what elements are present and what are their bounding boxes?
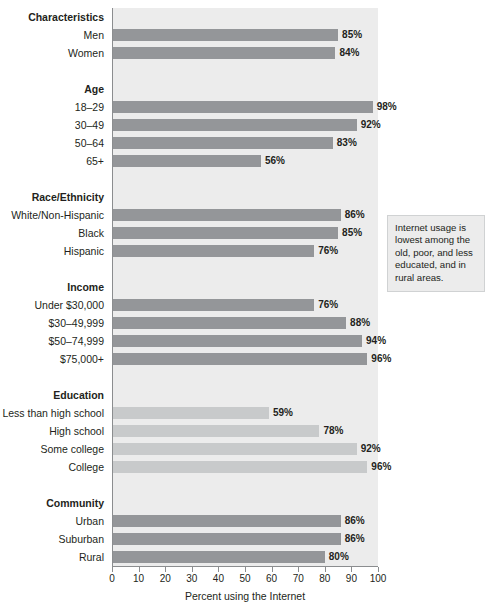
- bar: [112, 533, 341, 545]
- group-header-label: Race/Ethnicity: [0, 188, 104, 206]
- x-axis-tick-label: 40: [203, 573, 233, 584]
- x-axis-tick-label: 80: [310, 573, 340, 584]
- bar-value-label: 78%: [319, 422, 343, 440]
- plot-band: [112, 260, 378, 278]
- bar-value-label: 92%: [357, 116, 381, 134]
- x-axis-tick-label: 30: [177, 573, 207, 584]
- bar-value-label: 56%: [261, 152, 285, 170]
- bar-row-label: $75,000+: [0, 350, 104, 368]
- x-axis-tick: [192, 567, 193, 572]
- bar-row: $75,000+96%: [0, 350, 497, 368]
- x-axis-tick: [112, 567, 113, 572]
- bar-value-label: 76%: [314, 296, 338, 314]
- bar-row: 65+56%: [0, 152, 497, 170]
- plot-band: [112, 8, 378, 26]
- group-header-row: Community: [0, 494, 497, 512]
- bar-row-label: Men: [0, 26, 104, 44]
- plot-band: [112, 80, 378, 98]
- row-spacer: [0, 368, 497, 386]
- bar-row-label: Hispanic: [0, 242, 104, 260]
- plot-band: [112, 62, 378, 80]
- bar-row: Under $30,00076%: [0, 296, 497, 314]
- bar-row-label: College: [0, 458, 104, 476]
- bar-row: $50–74,99994%: [0, 332, 497, 350]
- bar: [112, 461, 367, 473]
- bar: [112, 335, 362, 347]
- x-axis-tick: [218, 567, 219, 572]
- plot-band: [112, 170, 378, 188]
- bar-value-label: 98%: [373, 98, 397, 116]
- x-axis-tick-label: 70: [283, 573, 313, 584]
- bar: [112, 227, 338, 239]
- x-axis-tick: [325, 567, 326, 572]
- x-axis-tick-label: 60: [257, 573, 287, 584]
- x-axis-tick: [351, 567, 352, 572]
- x-axis-tick: [298, 567, 299, 572]
- bar: [112, 317, 346, 329]
- plot-band: [112, 386, 378, 404]
- bar-row: Suburban86%: [0, 530, 497, 548]
- bar-row: Some college92%: [0, 440, 497, 458]
- bar-value-label: 80%: [325, 548, 349, 566]
- group-header-row: Education: [0, 386, 497, 404]
- bar-row: Women84%: [0, 44, 497, 62]
- x-axis-tick-label: 20: [150, 573, 180, 584]
- x-axis-tick-label: 50: [230, 573, 260, 584]
- plot-band: [112, 188, 378, 206]
- x-axis-tick-label: 90: [336, 573, 366, 584]
- group-header-label: Income: [0, 278, 104, 296]
- bar-value-label: 76%: [314, 242, 338, 260]
- x-axis-tick: [139, 567, 140, 572]
- bar-value-label: 86%: [341, 530, 365, 548]
- bar-row: $30–49,99988%: [0, 314, 497, 332]
- group-header-label: Education: [0, 386, 104, 404]
- bar-row-label: 18–29: [0, 98, 104, 116]
- bar: [112, 299, 314, 311]
- bar-row: High school78%: [0, 422, 497, 440]
- x-axis-tick-label: 0: [97, 573, 127, 584]
- bar-row: Rural80%: [0, 548, 497, 566]
- plot-band: [112, 494, 378, 512]
- x-axis-tick: [165, 567, 166, 572]
- bar-row-label: Less than high school: [0, 404, 104, 422]
- x-axis-tick: [378, 567, 379, 572]
- bar-row-label: $50–74,999: [0, 332, 104, 350]
- bar-row-label: 65+: [0, 152, 104, 170]
- group-header-row: Age: [0, 80, 497, 98]
- group-header-label: Characteristics: [0, 8, 104, 26]
- bar: [112, 551, 325, 563]
- bar-value-label: 96%: [367, 458, 391, 476]
- bar-row-label: 30–49: [0, 116, 104, 134]
- bar-value-label: 86%: [341, 206, 365, 224]
- bar-value-label: 83%: [333, 134, 357, 152]
- bar: [112, 209, 341, 221]
- plot-band: [112, 476, 378, 494]
- bar-row-label: Urban: [0, 512, 104, 530]
- bar-row-label: $30–49,999: [0, 314, 104, 332]
- bar-row-label: High school: [0, 422, 104, 440]
- callout-text: Internet usage is lowest among the old, …: [395, 222, 473, 283]
- x-axis-tick: [272, 567, 273, 572]
- plot-band: [112, 368, 378, 386]
- row-spacer: [0, 62, 497, 80]
- group-header-row: Race/Ethnicity: [0, 188, 497, 206]
- bar-row-label: Rural: [0, 548, 104, 566]
- bar: [112, 443, 357, 455]
- bar: [112, 515, 341, 527]
- bar-value-label: 92%: [357, 440, 381, 458]
- bar-value-label: 86%: [341, 512, 365, 530]
- group-header-label: Community: [0, 494, 104, 512]
- bar-value-label: 88%: [346, 314, 370, 332]
- bar: [112, 353, 367, 365]
- bar-row: 18–2998%: [0, 98, 497, 116]
- bar: [112, 119, 357, 131]
- bar-row: 50–6483%: [0, 134, 497, 152]
- bar-row: 30–4992%: [0, 116, 497, 134]
- x-axis-tick-label: 100: [363, 573, 393, 584]
- bar: [112, 407, 269, 419]
- plot-band: [112, 278, 378, 296]
- bar: [112, 101, 373, 113]
- bar-value-label: 94%: [362, 332, 386, 350]
- bar: [112, 245, 314, 257]
- bar-row: Urban86%: [0, 512, 497, 530]
